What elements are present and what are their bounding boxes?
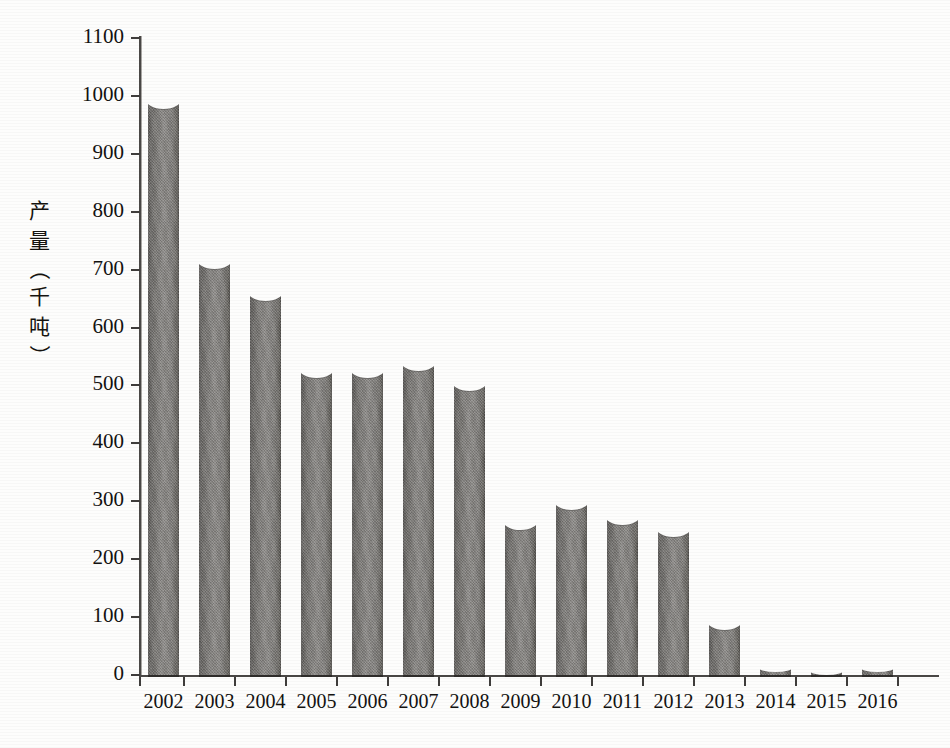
- x-tick-label: 2010: [544, 690, 600, 713]
- x-tick-label: 2003: [187, 690, 243, 713]
- x-tick-label: 2004: [238, 690, 294, 713]
- bar-2009: [505, 520, 536, 675]
- x-tick-label: 2016: [850, 690, 906, 713]
- bar-2006: [352, 368, 383, 675]
- bar-top-lip: [199, 259, 230, 270]
- bar-2007: [403, 361, 434, 675]
- bar-chart: 产 量 （ 千 吨 ） 0100200300400500600700800900…: [0, 0, 950, 748]
- x-tick-mark: [846, 677, 848, 686]
- bar-top-lip: [148, 99, 179, 110]
- x-tick-mark: [693, 677, 695, 686]
- x-tick-mark: [387, 677, 389, 686]
- bar-top-lip: [505, 520, 536, 531]
- y-axis-title-char-5: ）: [26, 338, 52, 372]
- x-tick-mark: [540, 677, 542, 686]
- x-tick-mark: [795, 677, 797, 686]
- x-tick-label: 2008: [442, 690, 498, 713]
- x-tick-mark: [183, 677, 185, 686]
- x-tick-label: 2014: [748, 690, 804, 713]
- bar-top-lip: [352, 368, 383, 379]
- x-tick-label: 2002: [136, 690, 192, 713]
- x-tick-label: 2009: [493, 690, 549, 713]
- bar-top-lip: [811, 671, 842, 675]
- y-axis-title-char-2: （: [26, 252, 52, 286]
- x-tick-mark: [744, 677, 746, 686]
- bar-top-lip: [862, 668, 893, 672]
- x-tick-mark: [489, 677, 491, 686]
- y-tick-label: 200: [66, 545, 124, 570]
- bar-top-lip: [250, 291, 281, 302]
- bar-2011: [607, 515, 638, 675]
- y-tick-label: 0: [66, 661, 124, 686]
- x-tick-mark: [438, 677, 440, 686]
- y-tick-mark: [131, 500, 140, 502]
- y-tick-mark: [131, 327, 140, 329]
- x-tick-label: 2011: [595, 690, 651, 713]
- bar-top-lip: [556, 500, 587, 511]
- bar-2002: [148, 99, 179, 675]
- bar-2005: [301, 368, 332, 675]
- y-tick-label: 1000: [66, 82, 124, 107]
- x-tick-label: 2015: [799, 690, 855, 713]
- bar-top-lip: [709, 620, 740, 631]
- x-tick-label: 2013: [697, 690, 753, 713]
- bar-top-lip: [403, 361, 434, 372]
- bar-top-lip: [607, 515, 638, 526]
- y-tick-label: 900: [66, 140, 124, 165]
- bar-top-lip: [658, 527, 689, 538]
- bar-2016: [862, 668, 893, 675]
- y-tick-label: 400: [66, 429, 124, 454]
- bar-2003: [199, 259, 230, 675]
- y-tick-mark: [131, 95, 140, 97]
- x-tick-mark: [139, 677, 141, 686]
- bar-2013: [709, 620, 740, 675]
- x-tick-mark: [642, 677, 644, 686]
- x-tick-mark: [234, 677, 236, 686]
- y-tick-mark: [131, 558, 140, 560]
- x-tick-mark: [591, 677, 593, 686]
- y-tick-label: 300: [66, 487, 124, 512]
- x-tick-mark: [336, 677, 338, 686]
- x-tick-label: 2007: [391, 690, 447, 713]
- bar-top-lip: [454, 381, 485, 392]
- y-tick-label: 800: [66, 198, 124, 223]
- y-axis-title-char-0: 产: [22, 196, 56, 226]
- bar-2012: [658, 527, 689, 675]
- y-axis-title-char-3: 千: [22, 282, 56, 312]
- y-tick-label: 100: [66, 603, 124, 628]
- bar-top-lip: [760, 668, 791, 672]
- y-tick-mark: [131, 674, 140, 676]
- y-tick-mark: [131, 37, 140, 39]
- bar-2004: [250, 291, 281, 675]
- y-tick-mark: [131, 384, 140, 386]
- x-tick-mark: [285, 677, 287, 686]
- x-tick-label: 2006: [340, 690, 396, 713]
- y-tick-label: 600: [66, 314, 124, 339]
- bar-2010: [556, 500, 587, 675]
- bar-top-lip: [301, 368, 332, 379]
- y-tick-label: 700: [66, 256, 124, 281]
- y-axis-title: 产 量 （ 千 吨 ）: [22, 196, 56, 368]
- y-tick-label: 1100: [66, 24, 124, 49]
- y-tick-mark: [131, 616, 140, 618]
- y-tick-mark: [131, 269, 140, 271]
- y-tick-mark: [131, 442, 140, 444]
- y-tick-mark: [131, 153, 140, 155]
- y-axis-line: [139, 36, 141, 677]
- x-tick-label: 2012: [646, 690, 702, 713]
- bar-2008: [454, 381, 485, 675]
- bar-2015: [811, 671, 842, 675]
- x-tick-label: 2005: [289, 690, 345, 713]
- y-tick-label: 500: [66, 371, 124, 396]
- bar-2014: [760, 668, 791, 675]
- y-tick-mark: [131, 211, 140, 213]
- x-tick-mark: [897, 677, 899, 686]
